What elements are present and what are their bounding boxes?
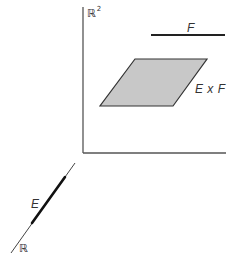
plane-label-superscript: 2 <box>97 5 101 13</box>
product-label: E x F <box>195 83 226 95</box>
set-e-label: E <box>31 198 39 210</box>
product-parallelogram <box>100 59 207 106</box>
plane-label: ℝ2 <box>87 8 101 19</box>
set-f-label: F <box>187 22 194 34</box>
real-line-label: ℝ <box>19 243 28 254</box>
diagram-canvas <box>0 0 235 260</box>
plane-label-base: ℝ <box>87 7 96 20</box>
